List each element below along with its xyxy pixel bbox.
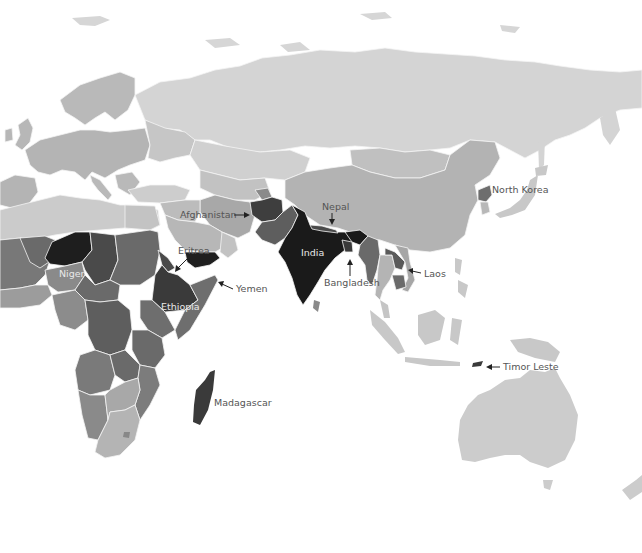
label-north-korea: North Korea [492,184,549,195]
region-timor-leste [472,361,483,367]
region-philippines [455,258,468,298]
arctic-islands [72,12,520,52]
svg-text:Afghanistan: Afghanistan [180,209,237,220]
region-egypt [125,205,160,230]
svg-text:Bangladesh: Bangladesh [324,277,380,288]
region-madagascar [193,370,215,425]
region-angola [75,350,115,395]
region-ireland [5,128,13,142]
label-yemen: Yemen [218,281,268,294]
svg-text:Yemen: Yemen [235,283,268,294]
region-drc [85,300,132,355]
svg-text:Ethiopia: Ethiopia [161,301,200,312]
svg-text:India: India [301,247,324,258]
region-sri-lanka [313,300,320,312]
svg-text:Eritrea: Eritrea [178,245,210,256]
region-cambodia [392,275,406,290]
label-india: India [301,247,324,258]
region-scandinavia [60,72,135,125]
svg-text:Laos: Laos [424,268,446,279]
region-uk [15,118,33,150]
svg-text:Nepal: Nepal [322,201,349,212]
label-ethiopia: Ethiopia [161,301,200,312]
region-sudan [110,230,160,285]
svg-text:Niger: Niger [59,268,85,279]
region-indonesia [370,310,462,366]
svg-text:Timor Leste: Timor Leste [502,361,559,372]
region-south-korea [480,202,490,215]
choropleth-map: Afghanistan Nepal North Korea Eritrea Ni… [0,0,642,553]
region-papua-new-guinea [510,338,560,362]
region-new-zealand [622,475,642,500]
region-north-korea [478,185,492,202]
region-malaysia [380,300,390,318]
region-russia [135,48,642,158]
label-niger: Niger [59,268,85,279]
svg-text:Madagascar: Madagascar [214,397,272,408]
svg-text:North Korea: North Korea [492,184,549,195]
label-timor-leste: Timor Leste [486,361,559,372]
region-australia [458,368,578,468]
label-madagascar: Madagascar [214,397,272,408]
region-tasmania [543,480,553,490]
region-lesotho [123,432,130,438]
region-sakhalin [538,138,545,170]
